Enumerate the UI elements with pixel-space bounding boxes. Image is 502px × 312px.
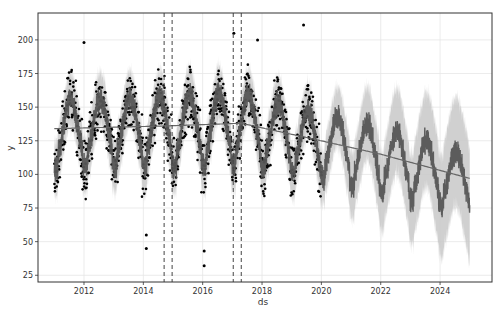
y-tick-label: 75 <box>23 204 33 213</box>
outlier-point <box>302 24 305 27</box>
outlier-point <box>145 247 148 250</box>
y-axis: 255075100125150175200 <box>18 36 38 280</box>
x-axis: 2012201420162018202020222024 <box>74 282 450 296</box>
y-tick-label: 200 <box>18 36 33 45</box>
outlier-point <box>256 38 259 41</box>
x-tick-label: 2020 <box>311 287 331 296</box>
x-tick-label: 2018 <box>252 287 272 296</box>
outlier-point <box>203 250 206 253</box>
y-tick-label: 25 <box>23 271 33 280</box>
chart-canvas: 2012201420162018202020222024 25507510012… <box>0 0 502 312</box>
y-axis-label: y <box>5 145 15 151</box>
forecast-chart: 2012201420162018202020222024 25507510012… <box>0 0 502 312</box>
x-tick-label: 2016 <box>193 287 213 296</box>
x-tick-label: 2014 <box>133 287 153 296</box>
x-axis-label: ds <box>258 297 269 307</box>
x-tick-label: 2012 <box>74 287 94 296</box>
y-tick-label: 175 <box>18 70 33 79</box>
outlier-point <box>145 233 148 236</box>
y-tick-label: 150 <box>18 103 33 112</box>
y-tick-label: 100 <box>18 170 33 179</box>
y-tick-label: 125 <box>18 137 33 146</box>
outlier-point <box>203 264 206 267</box>
outlier-point <box>82 41 85 44</box>
x-tick-label: 2024 <box>430 287 450 296</box>
x-tick-label: 2022 <box>371 287 391 296</box>
y-tick-label: 50 <box>23 238 33 247</box>
